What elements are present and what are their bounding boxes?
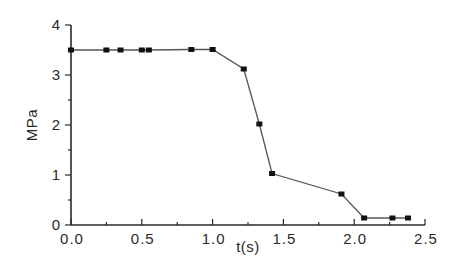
data-point-marker xyxy=(103,48,109,53)
data-point-marker xyxy=(361,216,367,221)
x-tick-label: 2.5 xyxy=(414,230,438,247)
x-tick-label: 1.0 xyxy=(202,230,226,247)
y-tick-label: 2 xyxy=(52,116,61,133)
y-axis-label: MPa xyxy=(23,109,40,142)
data-point-marker xyxy=(146,48,152,53)
data-series xyxy=(68,47,411,221)
x-tick-label: 2.0 xyxy=(343,230,367,247)
data-point-marker xyxy=(188,47,194,52)
x-tick-label: 1.5 xyxy=(272,230,296,247)
data-point-marker xyxy=(68,48,74,53)
x-tick-label: 0.0 xyxy=(60,230,84,247)
data-point-marker xyxy=(241,67,247,72)
x-axis-label: t(s) xyxy=(236,238,260,255)
line-chart: 01234 0.00.51.01.52.02.5 t(s) MPa xyxy=(0,0,460,272)
data-point-marker xyxy=(269,171,275,176)
y-tick-label: 3 xyxy=(52,66,61,83)
x-tick-label: 0.5 xyxy=(131,230,155,247)
data-point-marker xyxy=(389,216,395,221)
data-point-marker xyxy=(139,48,145,53)
data-point-marker xyxy=(338,192,344,197)
data-point-marker xyxy=(256,122,262,127)
y-tick-label: 4 xyxy=(52,16,61,33)
series-line xyxy=(71,50,408,219)
y-tick-label: 1 xyxy=(52,166,61,183)
data-point-marker xyxy=(210,47,216,52)
data-point-marker xyxy=(118,48,124,53)
data-point-marker xyxy=(405,216,411,221)
